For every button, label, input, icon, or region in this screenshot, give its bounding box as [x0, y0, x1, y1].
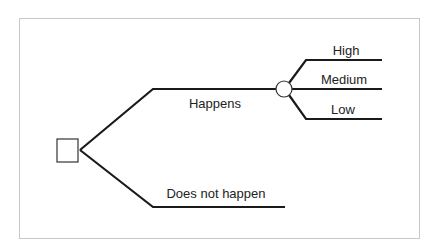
chance-node-circle	[276, 81, 292, 97]
label-high: High	[333, 43, 360, 58]
diagram-frame	[20, 19, 420, 239]
label-does-not-happen: Does not happen	[166, 186, 265, 201]
decision-tree-diagram: Happens Does not happen High Medium Low	[0, 0, 435, 248]
decision-node-square	[57, 139, 78, 162]
label-medium: Medium	[321, 72, 367, 87]
label-low: Low	[331, 102, 355, 117]
label-happens: Happens	[189, 96, 242, 111]
